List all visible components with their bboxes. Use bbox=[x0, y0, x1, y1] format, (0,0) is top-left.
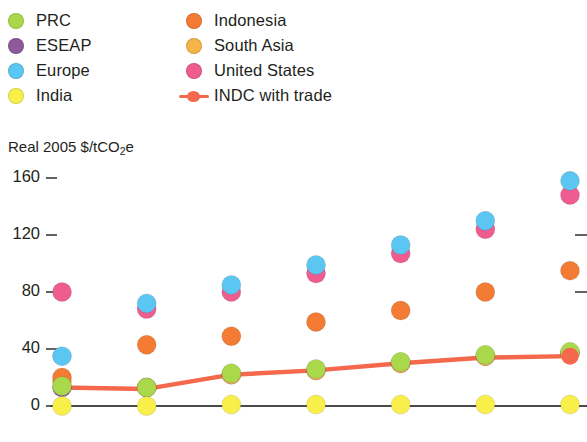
india-swatch-icon bbox=[8, 88, 24, 104]
data-point-europe bbox=[222, 275, 241, 294]
chart-figure: PRC ESEAP Europe India Indonesia S bbox=[0, 0, 587, 442]
data-point-indonesia bbox=[137, 335, 156, 354]
data-point-prc bbox=[307, 359, 326, 378]
data-point-prc bbox=[391, 352, 410, 371]
data-point-india bbox=[391, 395, 410, 414]
legend-item-eseap: ESEAP bbox=[8, 33, 92, 58]
data-point-europe bbox=[53, 347, 72, 366]
legend-item-united-states: United States bbox=[186, 58, 332, 83]
chart-legend: PRC ESEAP Europe India Indonesia S bbox=[0, 0, 587, 118]
legend-label-south-asia: South Asia bbox=[214, 36, 294, 55]
data-point-india bbox=[307, 395, 326, 414]
legend-item-indc-with-trade: INDC with trade bbox=[186, 83, 332, 108]
data-point-indc-with-trade bbox=[562, 348, 579, 365]
indc-line-swatch-icon bbox=[179, 88, 209, 104]
data-point-indonesia bbox=[391, 301, 410, 320]
legend-item-india: India bbox=[8, 83, 92, 108]
data-point-india bbox=[137, 397, 156, 416]
data-point-india bbox=[53, 397, 72, 416]
y-tick-label: 40 bbox=[0, 338, 40, 357]
europe-swatch-icon bbox=[8, 63, 24, 79]
indonesia-swatch-icon bbox=[186, 13, 202, 29]
y-tick-label: 0 bbox=[0, 395, 40, 414]
data-point-indonesia bbox=[476, 283, 495, 302]
united-states-swatch-icon bbox=[186, 63, 202, 79]
eseap-swatch-icon bbox=[8, 38, 24, 54]
data-point-europe bbox=[307, 255, 326, 274]
legend-item-indonesia: Indonesia bbox=[186, 8, 332, 33]
data-point-europe bbox=[137, 294, 156, 313]
data-point-europe bbox=[391, 235, 410, 254]
data-point-prc bbox=[53, 377, 72, 396]
data-point-india bbox=[561, 395, 580, 414]
legend-label-india: India bbox=[36, 86, 72, 105]
data-point-europe bbox=[476, 211, 495, 230]
legend-label-indc-with-trade: INDC with trade bbox=[214, 86, 332, 105]
data-point-prc bbox=[476, 345, 495, 364]
legend-label-europe: Europe bbox=[36, 61, 90, 80]
legend-label-prc: PRC bbox=[36, 11, 71, 30]
data-point-india bbox=[476, 395, 495, 414]
plot-canvas bbox=[0, 160, 587, 442]
y-tick-label: 160 bbox=[0, 167, 40, 186]
legend-label-united-states: United States bbox=[214, 61, 314, 80]
legend-column-right: Indonesia South Asia United States INDC … bbox=[186, 8, 332, 108]
y-axis-title: Real 2005 $/tCO2e bbox=[8, 138, 134, 155]
y-axis-title-prefix: Real 2005 $/tCO bbox=[8, 138, 120, 155]
data-point-indonesia bbox=[222, 327, 241, 346]
data-point-europe bbox=[561, 171, 580, 190]
south-asia-swatch-icon bbox=[186, 38, 202, 54]
data-point-indonesia bbox=[307, 312, 326, 331]
legend-item-europe: Europe bbox=[8, 58, 92, 83]
legend-column-left: PRC ESEAP Europe India bbox=[8, 8, 92, 108]
data-point-india bbox=[222, 395, 241, 414]
data-point-prc bbox=[137, 378, 156, 397]
y-axis-title-suffix: e bbox=[126, 138, 134, 155]
data-point-united-states bbox=[53, 283, 72, 302]
y-axis-title-subscript: 2 bbox=[120, 145, 126, 157]
y-tick-label: 120 bbox=[0, 224, 40, 243]
legend-item-prc: PRC bbox=[8, 8, 92, 33]
prc-swatch-icon bbox=[8, 13, 24, 29]
plot-area: 040801201602020202520302035204020452050 bbox=[0, 160, 587, 442]
y-tick-label: 80 bbox=[0, 281, 40, 300]
data-point-prc bbox=[222, 364, 241, 383]
legend-label-eseap: ESEAP bbox=[36, 36, 92, 55]
data-point-indonesia bbox=[561, 261, 580, 280]
legend-item-south-asia: South Asia bbox=[186, 33, 332, 58]
legend-label-indonesia: Indonesia bbox=[214, 11, 286, 30]
